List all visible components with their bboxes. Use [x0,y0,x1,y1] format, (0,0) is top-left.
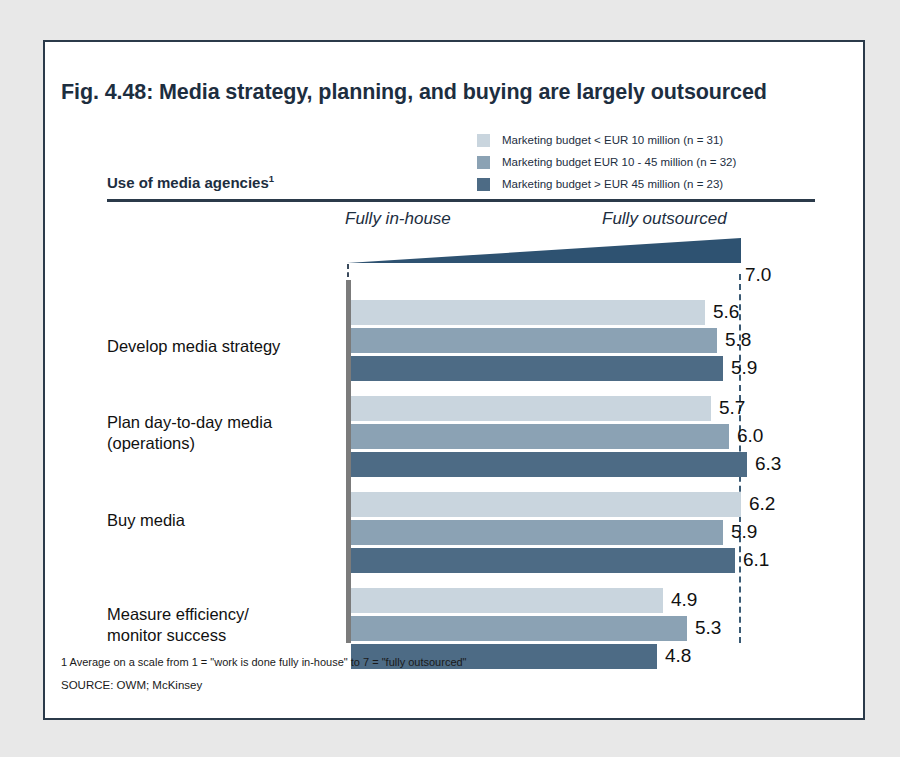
scale-left-caption: Fully in-house [345,209,451,229]
bar-value-label: 6.0 [737,425,763,447]
bar-value-label: 5.8 [725,329,751,351]
bar-segment [351,396,711,421]
bar-value-label: 5.6 [713,301,739,323]
legend-swatch-dark [477,178,490,191]
category-label-line: Develop media strategy [107,336,280,357]
legend-item-label: Marketing budget > EUR 45 million (n = 2… [502,178,723,190]
table-row: 5.8 [351,328,900,353]
footnote: 1 Average on a scale from 1 = "work is d… [61,656,467,668]
bar-segment [351,548,735,573]
category-label: Develop media strategy [107,336,280,357]
category-label: Measure efficiency/ monitor success [107,604,249,646]
bar-segment [351,328,717,353]
table-row: 5.9 [351,520,900,545]
bar-value-label: 5.9 [731,357,757,379]
category-label: Buy media [107,510,185,531]
scale-right-caption: Fully outsourced [602,209,727,229]
source-note: SOURCE: OWM; McKinsey [61,679,202,691]
bar-segment [351,452,747,477]
bar-segment [351,356,723,381]
bar-value-label: 4.9 [671,589,697,611]
chart-legend: Marketing budget < EUR 10 million (n = 3… [477,130,817,196]
section-heading-text: Use of media agencies [107,174,269,191]
table-row: 4.9 [351,588,900,613]
bar-value-label: 5.9 [731,521,757,543]
legend-item: Marketing budget EUR 10 - 45 million (n … [477,152,817,172]
category-label-line: monitor success [107,625,249,646]
bar-segment [351,588,663,613]
category-label-line: Measure efficiency/ [107,604,249,625]
bar-segment [351,300,705,325]
legend-swatch-medium [477,156,490,169]
page-background: Fig. 4.48: Media strategy, planning, and… [0,0,900,757]
table-row: 5.3 [351,616,900,641]
bar-segment [351,520,723,545]
legend-item: Marketing budget > EUR 45 million (n = 2… [477,174,817,194]
table-row: 6.0 [351,424,900,449]
bar-segment [351,616,687,641]
bar-value-label: 5.7 [719,397,745,419]
bar-value-label: 6.2 [749,493,775,515]
section-heading: Use of media agencies1 [107,173,274,191]
table-row: 6.2 [351,492,900,517]
category-label-line: (operations) [107,433,272,454]
section-heading-footnote-marker: 1 [269,173,274,184]
bar-value-label: 4.8 [665,645,691,667]
figure-card: Fig. 4.48: Media strategy, planning, and… [43,40,865,720]
legend-swatch-light [477,134,490,147]
category-label-line: Buy media [107,510,185,531]
legend-item-label: Marketing budget EUR 10 - 45 million (n … [502,156,736,168]
bar-value-label: 6.1 [743,549,769,571]
bar-value-label: 6.3 [755,453,781,475]
table-row: 5.6 [351,300,900,325]
bar-segment [351,424,729,449]
reference-line-label: 7.0 [745,264,771,286]
category-label: Plan day-to-day media (operations) [107,412,272,454]
page-title: Fig. 4.48: Media strategy, planning, and… [61,80,767,105]
bar-segment [351,492,741,517]
category-label-line: Plan day-to-day media [107,412,272,433]
table-row: 6.1 [351,548,900,573]
legend-item: Marketing budget < EUR 10 million (n = 3… [477,130,817,150]
outsourcing-gradient-wedge [347,238,741,264]
legend-item-label: Marketing budget < EUR 10 million (n = 3… [502,134,723,146]
chart-plot-area: 7.0 Develop media strategy 5.6 5.8 5.9 [45,264,867,664]
bar-value-label: 5.3 [695,617,721,639]
table-row: 5.9 [351,356,900,381]
section-divider [107,199,815,202]
table-row: 6.3 [351,452,900,477]
axis-origin-tick [347,264,351,277]
table-row: 5.7 [351,396,900,421]
